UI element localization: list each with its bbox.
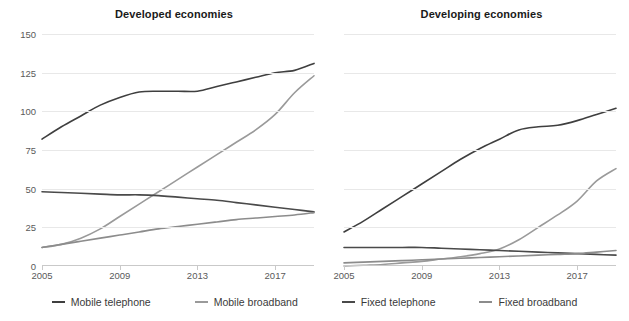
y-axis-tick-label: 100 (20, 106, 36, 117)
x-axis-tick-label: 2009 (109, 270, 130, 281)
gridline (344, 34, 616, 35)
x-axis-tick-label: 2013 (489, 270, 510, 281)
x-axis-tick-label: 2005 (31, 270, 52, 281)
legend-label: Mobile broadband (214, 296, 298, 308)
gridline (42, 189, 314, 190)
gridline (42, 34, 314, 35)
series-line (42, 63, 314, 139)
legend-item[interactable]: Mobile broadband (195, 296, 298, 308)
panel-title: Developing economies (330, 8, 629, 20)
legend-item[interactable]: Fixed broadband (479, 296, 577, 308)
legend-item[interactable]: Mobile telephone (52, 296, 151, 308)
series-line (344, 108, 616, 232)
chart-legend: Mobile telephoneMobile broadbandFixed te… (0, 289, 629, 315)
series-line (344, 169, 616, 266)
x-axis-tick-label: 2009 (411, 270, 432, 281)
gridline (344, 150, 616, 151)
series-line (42, 213, 314, 248)
x-axis-line (42, 265, 314, 266)
gridline (42, 73, 314, 74)
plot-area-developed: 02550751001251502005200920132017 (42, 34, 314, 266)
legend-line-swatch-icon (52, 301, 65, 303)
panel-developing-economies: Developing economies 2005200920132017 (330, 0, 629, 285)
legend-line-swatch-icon (195, 301, 208, 303)
x-axis-tick-label: 2013 (187, 270, 208, 281)
legend-label: Fixed telephone (361, 296, 436, 308)
y-axis-tick-label: 125 (20, 67, 36, 78)
plot-area-developing: 2005200920132017 (344, 34, 616, 266)
x-axis-tick-label: 2017 (265, 270, 286, 281)
series-line (344, 251, 616, 263)
legend-label: Fixed broadband (498, 296, 577, 308)
gridline (344, 111, 616, 112)
y-axis-tick-label: 75 (25, 145, 36, 156)
y-axis-tick-label: 150 (20, 29, 36, 40)
gridline (42, 150, 314, 151)
x-axis-tick-label: 2005 (333, 270, 354, 281)
x-axis-tick-label: 2017 (567, 270, 588, 281)
gridline (42, 111, 314, 112)
gridline (42, 227, 314, 228)
figure-container: Developed economies 02550751001251502005… (0, 0, 629, 321)
panel-title: Developed economies (0, 8, 330, 20)
x-axis-line (344, 265, 616, 266)
legend-item[interactable]: Fixed telephone (342, 296, 436, 308)
series-line (42, 192, 314, 212)
gridline (344, 73, 616, 74)
panel-developed-economies: Developed economies 02550751001251502005… (0, 0, 330, 285)
legend-label: Mobile telephone (71, 296, 151, 308)
y-axis-tick-label: 50 (25, 183, 36, 194)
legend-line-swatch-icon (342, 301, 355, 303)
series-line (42, 76, 314, 248)
gridline (344, 189, 616, 190)
gridline (344, 227, 616, 228)
legend-line-swatch-icon (479, 301, 492, 303)
y-axis-tick-label: 25 (25, 222, 36, 233)
